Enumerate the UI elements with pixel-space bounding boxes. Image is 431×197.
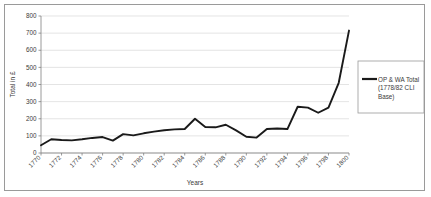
chart-legend: OP & WA Total (1778/82 CLI Base) <box>358 61 424 113</box>
x-tick-label: 1784 <box>171 153 186 168</box>
gridlines <box>41 16 349 153</box>
x-tick-label: 1800 <box>335 153 350 168</box>
x-tick-label: 1788 <box>212 153 227 168</box>
y-tick-label: 300 <box>26 98 37 105</box>
x-tick-label: 1774 <box>68 153 83 168</box>
x-tick-label: 1794 <box>273 153 288 168</box>
legend-label-line3: Base) <box>378 93 394 101</box>
y-tick-label: 400 <box>26 81 37 88</box>
legend-label-line1: OP & WA Total <box>378 76 419 83</box>
x-axis-title: Years <box>187 179 204 186</box>
y-tick-label: 700 <box>26 29 37 36</box>
x-tick-label: 1780 <box>130 153 145 168</box>
y-axis-ticks: 0100200300400500600700800 <box>26 12 41 156</box>
chart-frame: 0100200300400500600700800 17701772177417… <box>4 4 425 191</box>
x-tick-label: 1798 <box>314 153 329 168</box>
x-tick-label: 1776 <box>88 153 103 168</box>
data-series-line <box>41 31 349 146</box>
y-tick-label: 600 <box>26 46 37 53</box>
x-tick-label: 1782 <box>150 153 165 168</box>
x-tick-label: 1796 <box>294 153 309 168</box>
x-tick-label: 1778 <box>109 153 124 168</box>
x-tick-label: 1770 <box>27 153 42 168</box>
legend-label-line2: (1778/82 CLI <box>378 84 415 92</box>
x-tick-label: 1786 <box>191 153 206 168</box>
line-chart: 0100200300400500600700800 17701772177417… <box>5 5 424 190</box>
y-axis-title: Total in £ <box>9 71 16 97</box>
y-tick-label: 200 <box>26 115 37 122</box>
y-tick-label: 800 <box>26 12 37 19</box>
x-tick-label: 1772 <box>47 153 62 168</box>
x-tick-label: 1792 <box>253 153 268 168</box>
y-tick-label: 500 <box>26 64 37 71</box>
y-tick-label: 100 <box>26 132 37 139</box>
x-axis-ticks: 1770177217741776177817801782178417861788… <box>27 153 350 169</box>
x-tick-label: 1790 <box>232 153 247 168</box>
